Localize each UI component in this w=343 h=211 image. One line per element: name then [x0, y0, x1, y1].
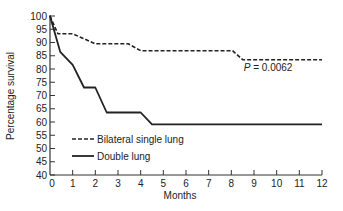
y-tick-label: 95	[36, 24, 48, 35]
axes: 4045505560657075808590951000123456789101…	[30, 11, 328, 190]
y-tick-label: 40	[36, 170, 48, 181]
legend-label: Double lung	[97, 151, 150, 162]
x-axis-title: Months	[164, 190, 197, 201]
survival-chart: 4045505560657075808590951000123456789101…	[0, 0, 343, 211]
x-tick-label: 1	[70, 178, 76, 189]
legend: Bilateral single lungDouble lung	[72, 134, 184, 162]
x-tick-label: 8	[229, 178, 235, 189]
y-tick-label: 65	[36, 103, 48, 114]
x-tick-label: 5	[161, 178, 167, 189]
x-tick-label: 6	[183, 178, 189, 189]
y-tick-label: 70	[36, 90, 48, 101]
y-tick-label: 85	[36, 50, 48, 61]
x-tick-label: 3	[115, 178, 121, 189]
x-tick-label: 9	[251, 178, 257, 189]
p-value-annotation: P = 0.0062	[244, 62, 293, 73]
series-line-bilateral-single-lung	[50, 16, 322, 60]
x-tick-label: 2	[93, 178, 99, 189]
y-tick-label: 100	[30, 11, 47, 22]
y-tick-label: 60	[36, 117, 48, 128]
y-tick-label: 80	[36, 64, 48, 75]
x-tick-label: 11	[294, 178, 305, 189]
y-tick-label: 90	[36, 37, 48, 48]
x-tick-label: 7	[206, 178, 212, 189]
y-tick-label: 55	[36, 130, 48, 141]
x-tick-label: 0	[49, 178, 55, 189]
x-tick-label: 12	[316, 178, 328, 189]
legend-label: Bilateral single lung	[97, 134, 184, 145]
y-tick-label: 75	[36, 77, 48, 88]
x-tick-label: 10	[271, 178, 283, 189]
y-axis-title: Percentage survival	[5, 52, 16, 140]
y-tick-label: 45	[36, 156, 48, 167]
y-tick-label: 50	[36, 143, 48, 154]
x-tick-label: 4	[138, 178, 144, 189]
